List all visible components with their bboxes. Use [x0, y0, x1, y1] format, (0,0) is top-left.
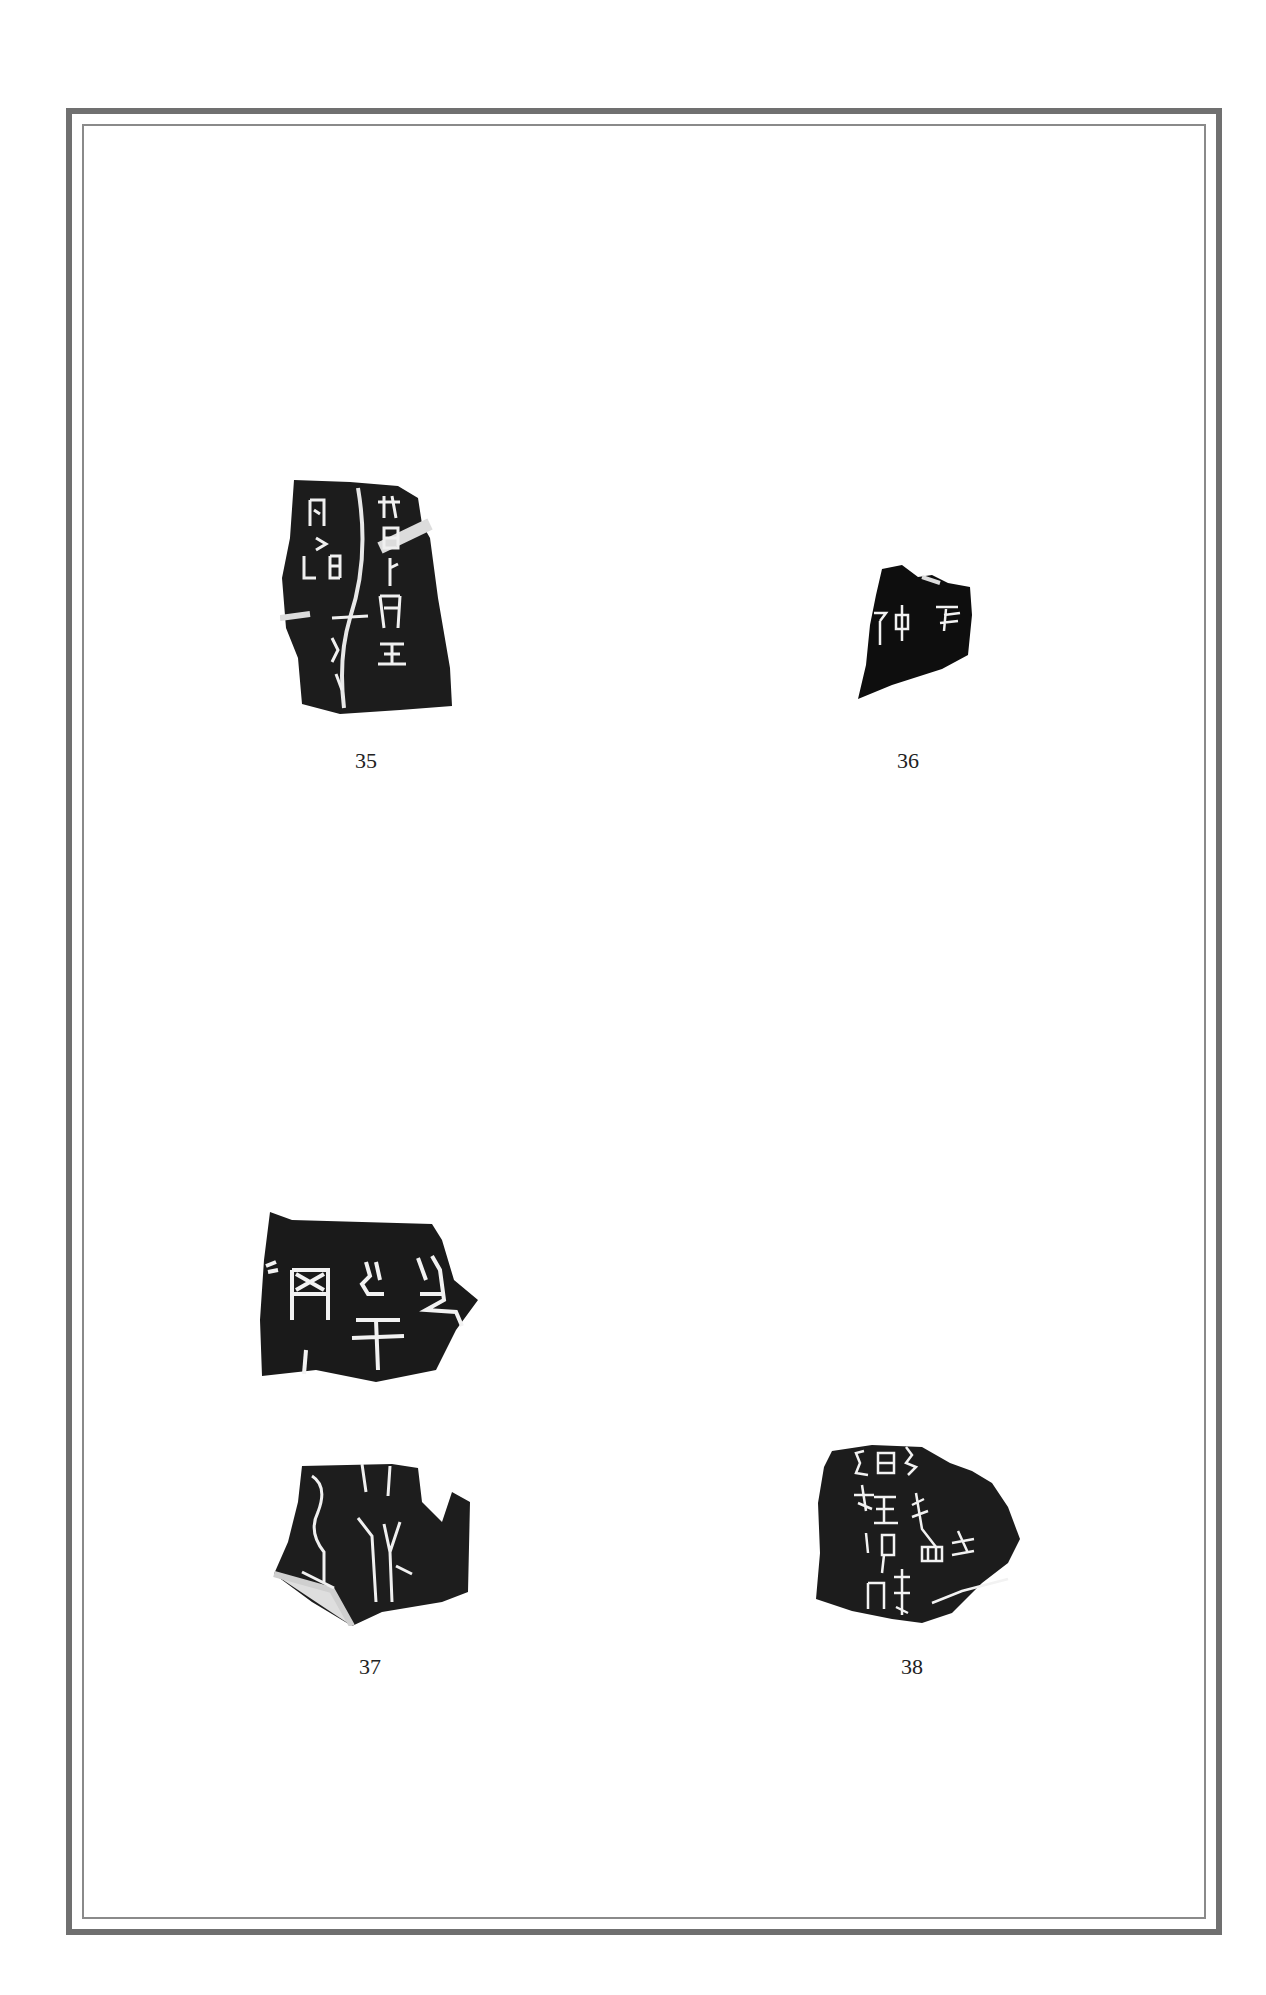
oracle-bone-rubbing-37-lower [272, 1462, 476, 1626]
rubbing-image-38 [812, 1443, 1022, 1631]
oracle-bone-rubbing-37-upper [256, 1210, 480, 1386]
oracle-bone-rubbing-35 [280, 478, 456, 716]
plate-number-36: 36 [878, 748, 938, 774]
oracle-bone-rubbing-38 [812, 1443, 1022, 1631]
rubbing-image-35 [280, 478, 456, 716]
page-frame-inner [82, 124, 1206, 1919]
plate-number-37: 37 [340, 1654, 400, 1680]
rubbing-image-37-upper [256, 1210, 480, 1386]
rubbing-image-36 [852, 565, 974, 701]
rubbing-image-37-lower [272, 1462, 476, 1626]
oracle-bone-rubbing-36 [852, 565, 974, 701]
plate-number-38: 38 [882, 1654, 942, 1680]
plate-number-35: 35 [336, 748, 396, 774]
page-frame-outer [66, 108, 1222, 1935]
